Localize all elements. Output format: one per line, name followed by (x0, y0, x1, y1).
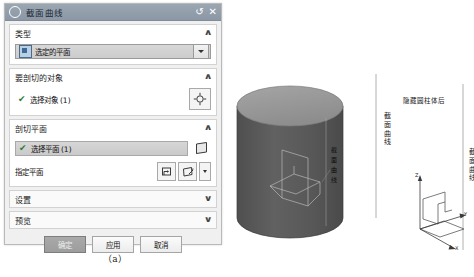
plane-icon-button[interactable] (192, 139, 211, 158)
group-type: 类型 ∧ 选定的平面 (9, 24, 217, 65)
group-title-preview: 预览 (15, 215, 31, 226)
apply-button[interactable]: 应用 (92, 236, 134, 253)
group-header-section-plane[interactable]: 剖切平面 ∧ (10, 120, 216, 136)
group-title-type: 类型 (15, 28, 31, 39)
axis-label-z: Z (415, 172, 419, 178)
group-content-section-plane: ✔ 选择平面 (1) 指定平面 (10, 136, 216, 186)
chevron-down-icon[interactable]: ∨ (203, 195, 212, 203)
dialog-title: 截面曲线 (26, 6, 195, 18)
screenshot-root: 截面曲线 ↺ ✕ 类型 ∧ 选定的平面 (0, 0, 474, 277)
axis-label-y: Y (463, 211, 468, 217)
figure-b: 截 面 曲 线 (230, 0, 474, 277)
group-content-objects: ✔ 选择对象 (1) (10, 85, 216, 115)
chevron-up-icon[interactable]: ∧ (203, 124, 212, 132)
gear-circle-icon (9, 6, 21, 18)
close-icon[interactable]: ✕ (209, 7, 217, 17)
chevron-up-icon[interactable]: ∧ (203, 73, 212, 81)
caption-b: （b） (460, 252, 474, 265)
plane-select-icon (19, 45, 32, 58)
axis-label-x: X (455, 245, 459, 250)
select-plane-field[interactable]: ✔ 选择平面 (1) (15, 141, 188, 156)
dialog-body: 类型 ∧ 选定的平面 (5, 21, 221, 253)
hidden-cylinder-note: 隐藏圆柱体后 (403, 95, 445, 105)
svg-text:曲: 曲 (331, 166, 337, 174)
plane-construct-icon (182, 166, 194, 178)
group-title-section-plane: 剖切平面 (15, 123, 47, 134)
select-objects-row: ✔ 选择对象 (1) (15, 88, 211, 110)
plane-icon (194, 141, 209, 156)
plane-construct-icon-button[interactable] (178, 162, 197, 181)
select-plane-label: 选择平面 (1) (31, 143, 72, 154)
svg-text:线: 线 (331, 176, 337, 183)
ok-button[interactable]: 确定 (44, 236, 86, 253)
reset-icon[interactable]: ↺ (195, 7, 203, 17)
coordinate-axes (418, 175, 466, 250)
cylinder-solid[interactable] (237, 86, 343, 238)
figure-a: 截面曲线 ↺ ✕ 类型 ∧ 选定的平面 (0, 0, 230, 277)
chevron-down-icon[interactable] (193, 44, 209, 59)
dialog-button-bar: 确定 应用 取消 (9, 236, 217, 253)
svg-text:面: 面 (331, 156, 337, 164)
specify-plane-tools (157, 162, 211, 181)
section-curve-wireframe-standalone[interactable] (420, 192, 464, 237)
divider-section-curve-label: 截面曲线 (383, 112, 392, 147)
group-header-preview[interactable]: 预览 ∨ (10, 212, 216, 228)
cancel-button[interactable]: 取消 (140, 236, 182, 253)
viewport-graphics: 截 面 曲 线 (230, 0, 474, 250)
titlebar-buttons: ↺ ✕ (195, 7, 217, 17)
group-settings: 设置 ∨ (9, 190, 217, 208)
group-title-objects: 要剖切的对象 (15, 72, 63, 83)
caret-down-glyph (203, 170, 207, 173)
right-section-curve-label: 截面曲线 (468, 148, 474, 183)
select-plane-row: ✔ 选择平面 (1) (15, 139, 211, 158)
section-curve-dialog: 截面曲线 ↺ ✕ 类型 ∧ 选定的平面 (4, 3, 222, 245)
group-section-plane: 剖切平面 ∧ ✔ 选择平面 (1) (9, 119, 217, 187)
type-combo[interactable]: 选定的平面 (15, 44, 211, 59)
select-objects-field[interactable]: ✔ 选择对象 (1) (15, 92, 185, 107)
datum-target-icon (193, 92, 207, 106)
plane-options-dropdown[interactable] (199, 162, 211, 181)
select-objects-label: 选择对象 (1) (30, 94, 71, 105)
group-header-settings[interactable]: 设置 ∨ (10, 191, 216, 207)
group-objects: 要剖切的对象 ∧ ✔ 选择对象 (1) (9, 68, 217, 116)
dialog-titlebar[interactable]: 截面曲线 ↺ ✕ (5, 4, 221, 21)
chevron-up-icon[interactable]: ∧ (203, 29, 212, 37)
cylinder-top-face (237, 86, 343, 126)
chevron-down-icon[interactable]: ∨ (203, 216, 212, 224)
caption-a: （a） (0, 252, 230, 265)
check-icon: ✔ (19, 144, 27, 153)
group-title-settings: 设置 (15, 194, 31, 205)
group-content-type: 选定的平面 (10, 41, 216, 64)
cylinder-curve-label: 截 (331, 146, 337, 154)
plane-snap-icon (161, 166, 173, 178)
group-preview: 预览 ∨ (9, 211, 217, 229)
type-combo-value: 选定的平面 (35, 46, 193, 57)
specify-plane-row: 指定平面 (15, 162, 211, 181)
group-header-objects[interactable]: 要剖切的对象 ∧ (10, 69, 216, 85)
check-icon: ✔ (18, 95, 26, 104)
datum-target-icon-button[interactable] (189, 88, 211, 110)
group-header-type[interactable]: 类型 ∧ (10, 25, 216, 41)
specify-plane-label: 指定平面 (15, 166, 43, 177)
plane-snap-icon-button[interactable] (157, 162, 176, 181)
caret-down-glyph (198, 50, 204, 53)
